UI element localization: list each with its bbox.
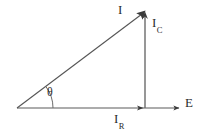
phasor-diagram-canvas [0, 0, 214, 135]
resultant-current-line [17, 14, 142, 108]
label-phase-angle: θ [47, 86, 53, 98]
label-capacitive-current: IC [152, 16, 162, 32]
label-capacitive-current-text: I [152, 15, 156, 30]
label-voltage: E [185, 96, 193, 109]
label-resistive-current-text: I [114, 111, 118, 126]
label-total-current: I [118, 3, 122, 16]
label-capacitive-current-subscript: C [157, 25, 163, 35]
label-phase-angle-text: θ [47, 85, 53, 99]
label-resistive-current-subscript: R [119, 121, 125, 131]
label-resistive-current: IR [114, 112, 124, 128]
phasor-diagram: I IC IR E θ [0, 0, 214, 135]
label-total-current-text: I [118, 2, 122, 17]
label-voltage-text: E [185, 95, 193, 110]
